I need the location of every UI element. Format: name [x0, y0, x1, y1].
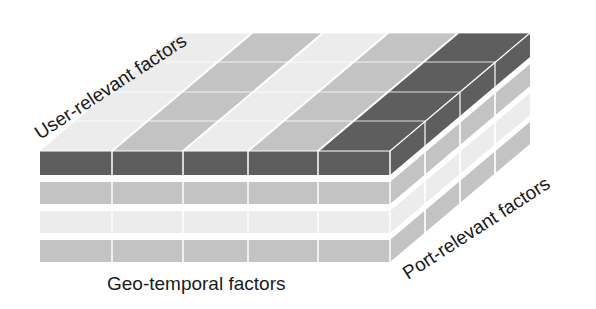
- front-row-2: [40, 182, 390, 204]
- geo-axis-label: Geo-temporal factors: [107, 273, 285, 294]
- front-row-4: [40, 240, 390, 262]
- front-row-3: [40, 211, 390, 233]
- front-row-1: [40, 151, 390, 175]
- front-face: [40, 151, 390, 262]
- tensor-block-diagram: User-relevant factors Geo-temporal facto…: [0, 0, 596, 309]
